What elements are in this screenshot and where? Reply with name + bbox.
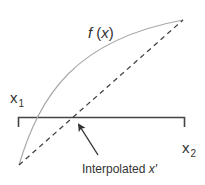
function-label: f (x) — [88, 25, 114, 40]
interpolated-text: Interpolated — [82, 162, 149, 176]
x1-base: x — [10, 89, 18, 106]
interval-bracket — [19, 118, 185, 128]
x1-subscript: 1 — [19, 98, 25, 109]
pointer-arrow — [79, 125, 98, 155]
function-argument: x — [101, 24, 109, 41]
function-close-paren: ) — [109, 24, 114, 41]
function-open-paren: ( — [92, 24, 101, 41]
x2-subscript: 2 — [191, 148, 197, 159]
x2-base: x — [182, 139, 190, 156]
x1-label: x1 — [10, 90, 24, 105]
interpolated-label: Interpolated x′ — [82, 163, 157, 175]
interpolated-variable: x′ — [149, 162, 157, 176]
x2-label: x2 — [182, 140, 196, 155]
interpolation-chord — [19, 20, 183, 165]
